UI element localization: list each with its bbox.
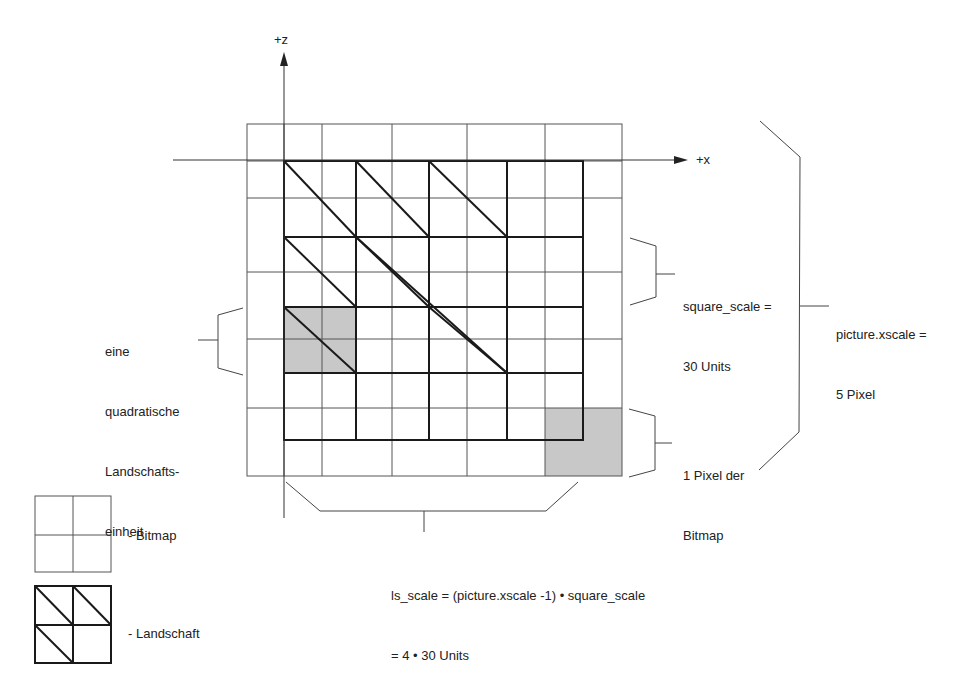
- one-pixel-line2: Bitmap: [683, 526, 744, 546]
- ls-scale-label: ls_scale = (picture.xscale -1) • square_…: [391, 546, 645, 685]
- landscape-unit-line1: eine: [105, 342, 179, 362]
- one-pixel-line1: 1 Pixel der: [683, 466, 744, 486]
- x-axis-arrow-icon: [674, 156, 688, 164]
- square-scale-label: square_scale = 30 Units: [683, 257, 772, 397]
- x-axis-label: +x: [696, 150, 710, 170]
- landscape-grid: [284, 161, 583, 440]
- ls-scale-line2: = 4 • 30 Units: [391, 646, 645, 666]
- square-scale-bracket: [630, 238, 656, 305]
- landscape-unit-label: eine quadratische Landschafts- einheit: [105, 302, 179, 562]
- landscape-unit-line2: quadratische: [105, 402, 179, 422]
- legend-landscape-label: - Landschaft: [128, 624, 200, 644]
- square-scale-line1: square_scale =: [683, 297, 772, 317]
- picture-xscale-label: picture.xscale = 5 Pixel: [836, 285, 927, 425]
- legend-bitmap-label: - Bitmap: [128, 526, 176, 546]
- picture-xscale-line2: 5 Pixel: [836, 385, 927, 405]
- picture-xscale-line1: picture.xscale =: [836, 325, 927, 345]
- z-axis-arrow-icon: [280, 52, 288, 66]
- legend-landscape-swatch: [35, 586, 111, 663]
- one-pixel-bracket: [629, 409, 655, 477]
- one-pixel-label: 1 Pixel der Bitmap: [683, 426, 744, 566]
- ls-scale-bracket: [286, 482, 578, 511]
- landscape-unit-bracket: [218, 308, 243, 375]
- z-axis-label: +z: [274, 30, 288, 50]
- ls-scale-line1: ls_scale = (picture.xscale -1) • square_…: [391, 586, 645, 606]
- legend-bitmap-swatch: [35, 496, 111, 572]
- square-scale-line2: 30 Units: [683, 357, 772, 377]
- landscape-unit-line3: Landschafts-: [105, 462, 179, 482]
